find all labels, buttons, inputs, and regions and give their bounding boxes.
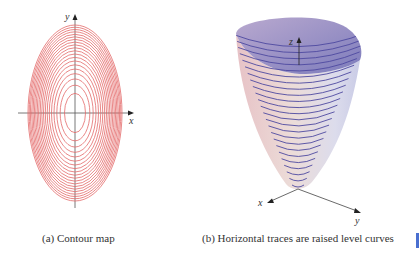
z-axis-label: z [288,36,293,47]
y-axis-3d [298,189,357,211]
y-axis-3d-arrow-icon [354,208,361,213]
x-axis-3d-label: x [257,197,263,208]
figure-canvas: x y z x y [0,0,419,255]
paraboloid-surface: z x y [232,18,368,226]
caption-a: (a) Contour map [42,232,115,244]
x-axis-3d [271,189,298,201]
y-axis-3d-label: y [354,215,360,226]
y-axis-arrow-icon [73,14,78,20]
y-axis-label: y [64,11,70,22]
x-axis-3d-arrow-icon [267,199,274,204]
caption-b: (b) Horizontal traces are raised level c… [202,232,394,244]
contour-map: x y [18,11,134,208]
x-axis-label: x [128,115,134,126]
